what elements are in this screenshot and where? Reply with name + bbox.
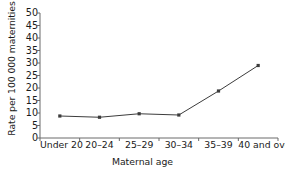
- x-tick-label: 30–34: [159, 139, 199, 151]
- x-axis-tick-labels: Under 20 20–24 25–29 30–34 35–39 40 and …: [0, 139, 285, 153]
- x-axis-title: Maternal age: [0, 156, 285, 167]
- data-point-marker: [58, 114, 61, 117]
- x-tick-label: 40 and over: [238, 139, 278, 151]
- x-tick-label: Under 20: [40, 139, 80, 151]
- x-tick-label: 20–24: [80, 139, 120, 151]
- data-point-marker: [177, 113, 180, 116]
- series-line: [60, 66, 258, 118]
- maternal-mortality-line-chart: Rate per 100 000 maternities 50 45 40 35…: [0, 0, 285, 174]
- data-point-marker: [217, 89, 220, 92]
- axes: [37, 13, 278, 141]
- data-series: [58, 64, 260, 119]
- data-point-marker: [257, 64, 260, 67]
- x-tick-label: 25–29: [119, 139, 159, 151]
- data-point-marker: [138, 112, 141, 115]
- x-tick-label: 35–39: [199, 139, 239, 151]
- data-point-marker: [98, 116, 101, 119]
